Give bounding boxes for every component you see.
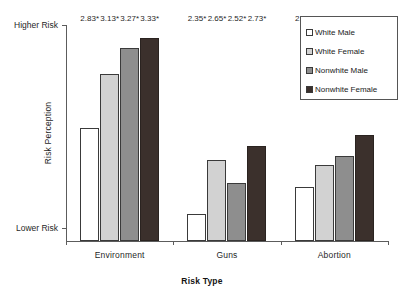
legend: White MaleWhite FemaleNonwhite MaleNonwh… bbox=[300, 16, 398, 100]
bar-guns-nonwhite-male[interactable]: 2.52* bbox=[227, 183, 246, 241]
x-axis-category-label-guns: Guns bbox=[173, 250, 280, 260]
bar-environment-nonwhite-female[interactable]: 3.33* bbox=[140, 38, 159, 241]
bar-guns-white-female[interactable]: 2.65* bbox=[207, 160, 226, 241]
bar-value-label: 2.83* bbox=[80, 14, 99, 23]
legend-swatch-icon bbox=[306, 48, 313, 55]
bar-value-label: 2.73* bbox=[248, 14, 267, 23]
bar-slot: 2.52* bbox=[227, 25, 246, 241]
x-axis-tick-mark bbox=[66, 241, 67, 245]
legend-item-label: White Female bbox=[315, 47, 364, 56]
legend-swatch-icon bbox=[306, 67, 313, 74]
x-axis-tick-mark bbox=[281, 241, 282, 245]
x-axis-tick-mark bbox=[388, 241, 389, 245]
legend-swatch-icon bbox=[306, 29, 313, 36]
x-axis-tick-marks bbox=[66, 241, 388, 246]
bar-slot: 2.65* bbox=[207, 25, 226, 241]
bar-value-label: 2.52* bbox=[228, 14, 247, 23]
legend-item-label: Nonwhite Female bbox=[315, 85, 377, 94]
legend-item-white-female[interactable]: White Female bbox=[306, 42, 397, 61]
bar-value-label: 3.33* bbox=[140, 14, 159, 23]
x-axis-category-label-abortion: Abortion bbox=[281, 250, 388, 260]
legend-item-nonwhite-male[interactable]: Nonwhite Male bbox=[306, 61, 397, 80]
legend-item-nonwhite-female[interactable]: Nonwhite Female bbox=[306, 80, 397, 99]
bar-slot: 3.13* bbox=[100, 25, 119, 241]
bar-group-guns: 2.35*2.65*2.52*2.73* bbox=[173, 25, 280, 241]
bar-slot: 3.33* bbox=[140, 25, 159, 241]
bar-slot: 2.83* bbox=[80, 25, 99, 241]
y-axis-tick-label-higher-risk: Higher Risk bbox=[14, 20, 58, 30]
bar-value-label: 3.27* bbox=[120, 14, 139, 23]
bar-abortion-white-female[interactable]: 2.62 bbox=[315, 165, 334, 241]
bar-slot: 2.73* bbox=[247, 25, 266, 241]
bar-slot: 3.27* bbox=[120, 25, 139, 241]
bar-value-label: 3.13* bbox=[100, 14, 119, 23]
y-axis-tick-label-lower-risk: Lower Risk bbox=[16, 223, 58, 233]
bar-slot: 2.35* bbox=[187, 25, 206, 241]
bar-environment-white-male[interactable]: 2.83* bbox=[80, 128, 99, 241]
risk-perception-bar-chart: Risk Perception Higher Risk Lower Risk 2… bbox=[0, 0, 404, 298]
bar-abortion-nonwhite-male[interactable]: 2.67 bbox=[335, 156, 354, 241]
bar-environment-nonwhite-male[interactable]: 3.27* bbox=[120, 48, 139, 241]
legend-item-label: Nonwhite Male bbox=[315, 66, 368, 75]
legend-item-white-male[interactable]: White Male bbox=[306, 23, 397, 42]
bar-abortion-white-male[interactable]: 2.50* bbox=[295, 187, 314, 241]
x-axis-category-label-environment: Environment bbox=[66, 250, 173, 260]
bar-environment-white-female[interactable]: 3.13* bbox=[100, 74, 119, 241]
x-axis-title: Risk Type bbox=[0, 276, 404, 286]
y-axis-title: Risk Perception bbox=[43, 102, 53, 165]
bar-group-environment: 2.83*3.13*3.27*3.33* bbox=[66, 25, 173, 241]
bar-value-label: 2.65* bbox=[208, 14, 227, 23]
bar-guns-nonwhite-female[interactable]: 2.73* bbox=[247, 146, 266, 241]
x-axis-category-labels: EnvironmentGunsAbortion bbox=[66, 250, 388, 260]
bar-guns-white-male[interactable]: 2.35* bbox=[187, 214, 206, 241]
legend-swatch-icon bbox=[306, 86, 313, 93]
legend-item-label: White Male bbox=[315, 28, 355, 37]
x-axis-tick-mark bbox=[173, 241, 174, 245]
bar-abortion-nonwhite-female[interactable]: 2.79* bbox=[355, 135, 374, 241]
bar-value-label: 2.35* bbox=[188, 14, 207, 23]
